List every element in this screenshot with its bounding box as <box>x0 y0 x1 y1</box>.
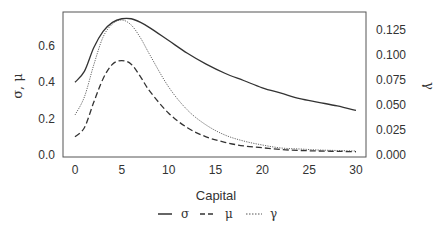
x-axis-label: Capital <box>196 188 237 203</box>
plot-frame <box>63 12 366 157</box>
x-tick-label: 20 <box>256 163 270 177</box>
y-right-tick-label: 0.125 <box>376 23 406 37</box>
y-tick-label: 0.4 <box>38 75 55 89</box>
x-axis-ticks: 051015202530 <box>72 163 363 177</box>
x-tick-label: 0 <box>72 163 79 177</box>
legend-label-mu: μ <box>225 207 233 221</box>
y-tick-label: 0.6 <box>38 39 55 53</box>
x-tick-label: 5 <box>118 163 125 177</box>
y-axis-right-label: γ <box>422 82 437 90</box>
series-solid-line <box>75 18 356 110</box>
x-tick-label: 15 <box>209 163 223 177</box>
legend-label-sigma: σ <box>181 207 189 221</box>
x-tick-label: 25 <box>302 163 316 177</box>
y-tick-label: 0.2 <box>38 112 55 126</box>
series-dashed-line <box>75 61 356 152</box>
x-tick-label: 30 <box>349 163 363 177</box>
legend: σ μ γ <box>158 207 277 221</box>
x-tick-label: 10 <box>162 163 176 177</box>
y-right-tick-label: 0.075 <box>376 73 406 87</box>
plot-lines <box>75 18 356 151</box>
y-right-tick-label: 0.050 <box>376 98 406 112</box>
series-dotted-line <box>75 20 356 151</box>
y-tick-label: 0.0 <box>38 148 55 162</box>
line-chart: 051015202530 0.00.20.40.6 0.0000.0250.05… <box>0 0 441 230</box>
y-axis-left-label: σ, μ <box>10 73 25 99</box>
y-axis-left-ticks: 0.00.20.40.6 <box>38 39 55 162</box>
y-right-tick-label: 0.100 <box>376 48 406 62</box>
y-right-tick-label: 0.025 <box>376 123 406 137</box>
legend-label-gamma: γ <box>270 207 277 221</box>
y-axis-right-ticks: 0.0000.0250.0500.0750.1000.125 <box>376 23 406 162</box>
y-right-tick-label: 0.000 <box>376 148 406 162</box>
